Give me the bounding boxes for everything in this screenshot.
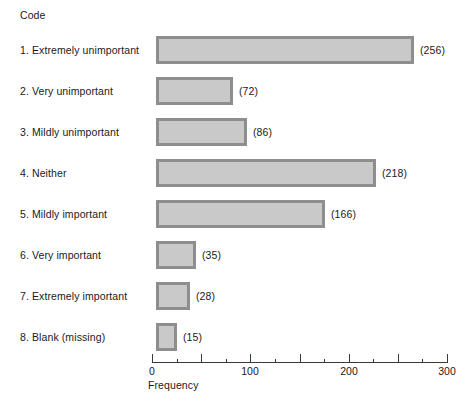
- x-tick-major: [349, 354, 350, 363]
- bar-value-label: (72): [239, 77, 258, 105]
- category-label: 5. Mildly important: [20, 199, 107, 229]
- bar-value-label: (15): [183, 323, 202, 351]
- category-label: 8. Blank (missing): [20, 322, 105, 352]
- bar-row: 6. Very important(35): [0, 240, 471, 270]
- category-label: 7. Extremely important: [20, 281, 127, 311]
- x-tick-major: [398, 354, 399, 363]
- bar-value-label: (35): [202, 241, 221, 269]
- bar: [156, 200, 325, 228]
- x-tick-minor: [177, 359, 178, 363]
- bar: [156, 118, 247, 146]
- category-label: 4. Neither: [20, 158, 67, 188]
- x-tick-major: [250, 354, 251, 363]
- x-tick-label: 300: [438, 365, 456, 378]
- x-tick-label: 0: [149, 365, 155, 378]
- category-label: 1. Extremely unimportant: [20, 35, 139, 65]
- x-tick-minor: [373, 359, 374, 363]
- code-legend-header: Code: [20, 9, 46, 22]
- bar-row: 4. Neither(218): [0, 158, 471, 188]
- frequency-bar-chart: Code 1. Extremely unimportant(256)2. Ver…: [0, 0, 471, 407]
- x-tick-major: [152, 354, 153, 363]
- x-tick-minor: [275, 359, 276, 363]
- x-axis-title: Frequency: [148, 379, 199, 392]
- bar: [156, 241, 196, 269]
- x-tick-major: [447, 354, 448, 363]
- bar-value-label: (166): [331, 200, 356, 228]
- x-tick-label: 100: [241, 365, 259, 378]
- x-tick-minor: [422, 359, 423, 363]
- bar-row: 7. Extremely important(28): [0, 281, 471, 311]
- bar-value-label: (28): [196, 282, 215, 310]
- bar: [156, 77, 233, 105]
- bar-row: 2. Very unimportant(72): [0, 76, 471, 106]
- bar-value-label: (218): [382, 159, 407, 187]
- bar: [156, 323, 177, 351]
- x-tick-major: [201, 354, 202, 363]
- bar-row: 1. Extremely unimportant(256): [0, 35, 471, 65]
- bar: [156, 36, 414, 64]
- bar: [156, 159, 376, 187]
- bar-row: 5. Mildly important(166): [0, 199, 471, 229]
- x-tick-major: [300, 354, 301, 363]
- bar: [156, 282, 190, 310]
- bar-value-label: (86): [253, 118, 272, 146]
- x-tick-label: 200: [340, 365, 358, 378]
- category-label: 3. Mildly unimportant: [20, 117, 119, 147]
- category-label: 6. Very important: [20, 240, 101, 270]
- x-axis: 0100200300 Frequency: [0, 352, 471, 407]
- bar-row: 8. Blank (missing)(15): [0, 322, 471, 352]
- x-tick-minor: [324, 359, 325, 363]
- x-tick-minor: [226, 359, 227, 363]
- bar-value-label: (256): [420, 36, 445, 64]
- category-label: 2. Very unimportant: [20, 76, 113, 106]
- bar-row: 3. Mildly unimportant(86): [0, 117, 471, 147]
